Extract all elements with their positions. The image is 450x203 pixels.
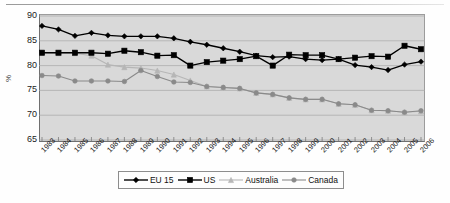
y-tick-75: 75 (15, 85, 37, 94)
legend-item-australia: Australia (219, 175, 278, 185)
series-canada (40, 68, 424, 114)
legend-label: Canada (308, 175, 338, 185)
y-tick-65: 65 (15, 135, 37, 144)
legend-marker-triangle-icon (219, 175, 243, 185)
legend-label: Australia (245, 175, 278, 185)
chart-legend: EU 15USAustraliaCanada (118, 171, 344, 189)
y-tick-80: 80 (15, 61, 37, 70)
legend-marker-circle-icon (282, 175, 306, 185)
legend-item-us: US (178, 175, 216, 185)
y-tick-70: 70 (15, 110, 37, 119)
top-divider-rule (6, 4, 444, 5)
y-tick-85: 85 (15, 36, 37, 45)
y-axis-tick-labels: 908580757065 (13, 0, 37, 160)
legend-marker-diamond-icon (124, 175, 148, 185)
y-tick-90: 90 (15, 11, 37, 20)
series-canvas (39, 14, 425, 142)
plot-area (39, 14, 425, 142)
series-us (39, 43, 423, 68)
legend-item-eu-15: EU 15 (124, 175, 174, 185)
legend-marker-square-icon (178, 175, 202, 185)
legend-item-canada: Canada (282, 175, 338, 185)
legend-label: EU 15 (150, 175, 174, 185)
legend-label: US (204, 175, 216, 185)
chart-figure: % 908580757065 1983198419851986198719881… (0, 0, 450, 203)
